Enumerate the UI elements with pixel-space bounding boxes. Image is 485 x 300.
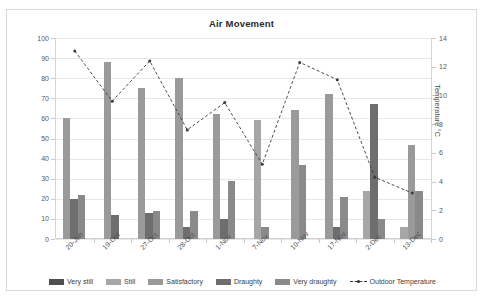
legend-line-marker <box>350 278 367 285</box>
category-tick <box>319 239 320 243</box>
category-tick <box>394 239 395 243</box>
category-tick <box>356 239 357 243</box>
legend-label: Outdoor Temperature <box>370 278 436 285</box>
bar-group <box>319 38 357 239</box>
bar-group <box>131 38 169 239</box>
left-axis-tick <box>51 139 55 140</box>
right-axis-tick <box>432 153 436 154</box>
bar-group <box>169 38 207 239</box>
left-axis-tick-label: 70 <box>19 95 49 102</box>
bar <box>213 114 221 239</box>
left-axis-tick <box>51 179 55 180</box>
bar <box>175 78 183 239</box>
bar-group <box>394 38 432 239</box>
bar-group <box>244 38 282 239</box>
right-axis-tick <box>432 239 436 240</box>
legend-item[interactable]: Draughty <box>216 278 262 285</box>
legend-swatch <box>49 279 64 285</box>
left-axis-tick <box>51 118 55 119</box>
left-axis-tick <box>51 38 55 39</box>
left-axis-tick <box>51 159 55 160</box>
right-axis-line <box>431 38 432 239</box>
legend-label: Draughty <box>234 278 262 285</box>
chart-container: Air Movement 0102030405060708090100 0246… <box>6 9 477 291</box>
legend-label: Still <box>124 278 135 285</box>
bar <box>363 191 371 239</box>
right-axis-tick <box>432 210 436 211</box>
left-axis-tick-label: 50 <box>19 135 49 142</box>
category-tick <box>431 239 432 243</box>
right-axis-tick-label: 6 <box>439 149 463 156</box>
left-axis-tick-label: 60 <box>19 115 49 122</box>
bar <box>299 165 307 239</box>
bar <box>370 104 378 239</box>
left-axis-tick <box>51 58 55 59</box>
bar-group <box>56 38 94 239</box>
category-tick <box>206 239 207 243</box>
category-tick <box>94 239 95 243</box>
bar <box>138 88 146 239</box>
left-axis-tick <box>51 78 55 79</box>
legend-item[interactable]: Satisfactory <box>148 278 203 285</box>
left-axis-tick-label: 30 <box>19 175 49 182</box>
category-tick <box>169 239 170 243</box>
right-axis-tick-label: 2 <box>439 207 463 214</box>
legend-item[interactable]: Very still <box>49 278 93 285</box>
bar <box>325 94 333 239</box>
category-tick <box>281 239 282 243</box>
category-tick <box>131 239 132 243</box>
left-axis-tick <box>51 239 55 240</box>
left-axis-tick-label: 10 <box>19 215 49 222</box>
right-axis-tick <box>432 182 436 183</box>
right-axis-tick-label: 10 <box>439 92 463 99</box>
bar <box>228 181 236 239</box>
legend-label: Very still <box>67 278 93 285</box>
bar-group <box>206 38 244 239</box>
left-axis-tick-label: 20 <box>19 195 49 202</box>
category-tick <box>244 239 245 243</box>
right-axis-tick-label: 0 <box>439 236 463 243</box>
plot-area <box>56 38 431 239</box>
legend-item[interactable]: Very draughty <box>275 278 336 285</box>
legend-item[interactable]: Outdoor Temperature <box>350 278 436 285</box>
legend-swatch <box>216 279 231 285</box>
left-axis-tick-label: 90 <box>19 55 49 62</box>
chart-legend: Very stillStillSatisfactoryDraughtyVery … <box>7 278 478 285</box>
bar <box>408 145 416 239</box>
right-axis-tick-label: 8 <box>439 121 463 128</box>
right-axis-tick <box>432 67 436 68</box>
bar-group <box>281 38 319 239</box>
right-axis-tick-label: 4 <box>439 178 463 185</box>
right-axis-tick-label: 14 <box>439 35 463 42</box>
bar-group <box>356 38 394 239</box>
legend-label: Very draughty <box>293 278 336 285</box>
left-axis-tick-label: 80 <box>19 75 49 82</box>
bar <box>63 118 71 239</box>
legend-swatch <box>106 279 121 285</box>
bar <box>291 110 299 239</box>
left-axis-tick <box>51 219 55 220</box>
bar-group <box>94 38 132 239</box>
legend-swatch <box>148 279 163 285</box>
left-axis-tick <box>51 98 55 99</box>
left-axis-tick-label: 100 <box>19 35 49 42</box>
left-axis-tick-label: 0 <box>19 236 49 243</box>
legend-label: Satisfactory <box>166 278 203 285</box>
left-axis-tick-label: 40 <box>19 155 49 162</box>
right-axis-title: Temperature °C <box>433 84 442 137</box>
bar <box>104 62 112 239</box>
bar <box>400 227 408 239</box>
legend-item[interactable]: Still <box>106 278 135 285</box>
chart-title: Air Movement <box>7 18 476 29</box>
left-axis-tick <box>51 199 55 200</box>
right-axis-tick-label: 12 <box>439 63 463 70</box>
legend-swatch <box>275 279 290 285</box>
bar <box>254 120 262 239</box>
right-axis-tick <box>432 38 436 39</box>
